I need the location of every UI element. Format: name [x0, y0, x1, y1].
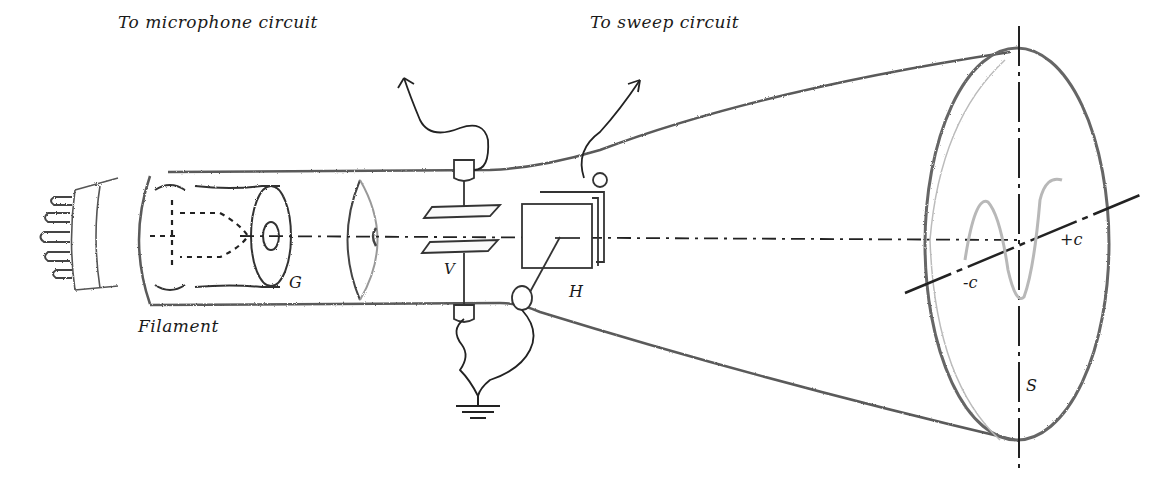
sweep-circuit-label: To sweep circuit: [590, 14, 739, 31]
base-pins: [41, 197, 73, 278]
sine-trace: [965, 179, 1062, 298]
ground-icon: [456, 396, 500, 418]
plus-c-label: +c: [1060, 232, 1082, 248]
beam-axis: [240, 236, 1018, 240]
anode-disc: [348, 180, 378, 300]
grid-label: G: [289, 275, 302, 291]
crt-diagram: To microphone circuit To sweep circuit F…: [0, 0, 1168, 491]
filament-wire: [150, 200, 248, 270]
screen-label: S: [1026, 378, 1037, 394]
minus-c-label: -c: [963, 275, 977, 291]
sweep-axis: [905, 195, 1140, 293]
microphone-circuit-label: To microphone circuit: [118, 14, 318, 31]
vertical-plates: [422, 160, 500, 322]
electron-gun: [155, 185, 291, 290]
filament-label: Filament: [138, 318, 219, 335]
crt-drawing: [0, 0, 1168, 491]
tube-base: [72, 178, 119, 290]
vertical-plates-label: V: [444, 262, 455, 277]
horizontal-plates: [512, 173, 607, 310]
horizontal-plates-label: H: [569, 284, 583, 300]
